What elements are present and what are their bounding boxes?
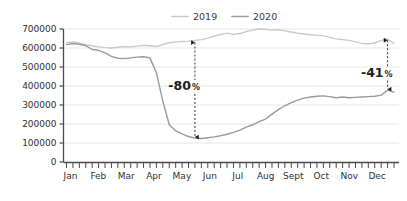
x-axis-month-label: Jul bbox=[231, 171, 243, 181]
y-axis-tick-label: 0 bbox=[51, 157, 57, 167]
annotation-percent-sign: % bbox=[192, 83, 200, 92]
annotations: -80%-41% bbox=[168, 40, 392, 137]
y-axis-tick-label: 100000 bbox=[22, 138, 57, 148]
legend-item-2019[interactable]: 2019 bbox=[172, 11, 217, 22]
y-axis-tick-label: 200000 bbox=[22, 119, 57, 129]
x-axis-month-label: Mar bbox=[118, 171, 135, 181]
x-axis-month-label: Sept bbox=[283, 171, 304, 181]
annotation-value: -41 bbox=[361, 65, 384, 80]
y-axis-tick-label: 600000 bbox=[22, 43, 57, 53]
x-axis-month-label: May bbox=[173, 171, 192, 181]
x-axis-month-label: Apr bbox=[146, 171, 162, 181]
x-axis-month-label: Jan bbox=[63, 171, 78, 181]
x-axis-month-label: Feb bbox=[90, 171, 106, 181]
legend-item-2020[interactable]: 2020 bbox=[232, 11, 277, 22]
line-chart: 2019 2020 010000020000030000040000050000… bbox=[0, 0, 407, 201]
x-axis-month-label: Oct bbox=[313, 171, 329, 181]
annotation-spring-drop: -80% bbox=[168, 43, 200, 138]
x-axis-month-label: Aug bbox=[257, 171, 275, 181]
x-axis-month-label: Dec bbox=[368, 171, 385, 181]
y-axis-tick-label: 700000 bbox=[22, 24, 57, 34]
annotation-value: -80 bbox=[168, 78, 191, 93]
y-axis-tick-label: 400000 bbox=[22, 81, 57, 91]
legend-label-2020: 2020 bbox=[253, 11, 277, 22]
x-axis-month-label: Nov bbox=[340, 171, 358, 181]
annotation-percent-sign: % bbox=[385, 70, 393, 79]
x-axis-month-label: Jun bbox=[202, 171, 217, 181]
legend-label-2019: 2019 bbox=[193, 11, 217, 22]
y-axis-tick-label: 300000 bbox=[22, 100, 57, 110]
y-axis-tick-label: 500000 bbox=[22, 62, 57, 72]
legend: 2019 2020 bbox=[172, 11, 277, 22]
y-axis-labels: 0100000200000300000400000500000600000700… bbox=[22, 24, 57, 167]
x-axis-labels: JanFebMarAprMayJunJulAugSeptOctNovDec bbox=[63, 171, 386, 181]
series-line-2019 bbox=[67, 29, 395, 48]
gridlines bbox=[64, 29, 400, 143]
chart-container: 2019 2020 010000020000030000040000050000… bbox=[0, 0, 407, 201]
